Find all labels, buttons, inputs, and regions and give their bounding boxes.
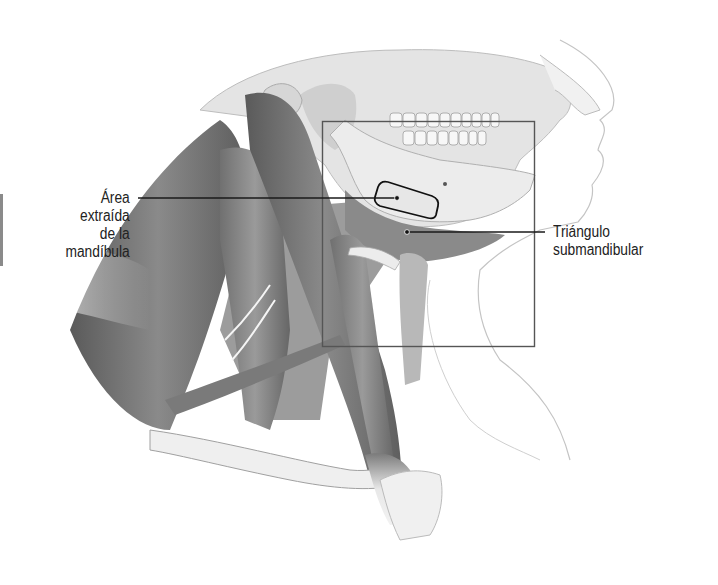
label-line: submandibular (553, 241, 643, 259)
neck-anatomy-illustration (0, 0, 718, 585)
left-edge-fragment (0, 194, 3, 266)
label-line: Triángulo (553, 223, 643, 241)
label-line: extraída (66, 207, 130, 225)
label-area-extraida: Área extraída de la mandíbula (66, 189, 130, 261)
label-line: mandíbula (66, 243, 130, 261)
leader-dot-triangulo (405, 230, 410, 235)
label-line: Área (66, 189, 130, 207)
leader-dot-area (395, 196, 400, 201)
label-triangulo-submandibular: Triángulo submandibular (553, 223, 643, 259)
label-line: de la (66, 225, 130, 243)
